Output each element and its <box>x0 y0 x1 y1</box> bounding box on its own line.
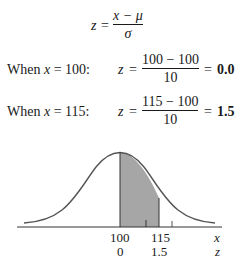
shaded-area <box>120 153 159 228</box>
x-axis-label: x <box>214 231 220 244</box>
x-tick-115: 115 <box>151 231 170 244</box>
normal-curve-svg <box>0 0 247 264</box>
z-axis-label: z <box>215 245 220 258</box>
z-tick-1-5: 1.5 <box>151 245 167 258</box>
x-tick-100: 100 <box>110 231 130 244</box>
z-tick-0: 0 <box>117 245 124 258</box>
